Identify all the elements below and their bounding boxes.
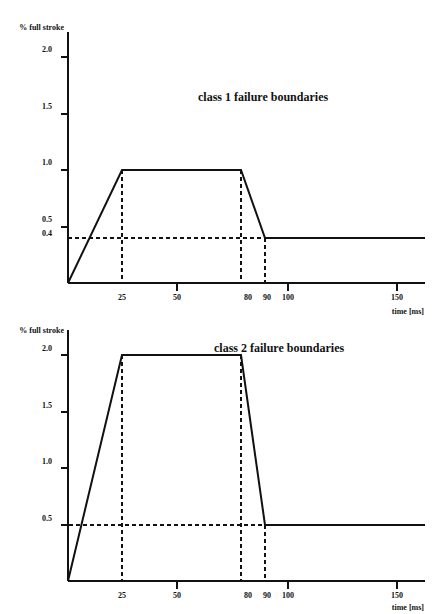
y-tick-label: 2.0 (42, 344, 52, 353)
chart-title: class 1 failure boundaries (198, 90, 328, 104)
y-axis-title: % full stroke (19, 23, 64, 32)
y-tick-label: 0.5 (42, 215, 52, 224)
y-tick-label: 0.4 (42, 229, 52, 238)
y-tick-label: 1.5 (42, 102, 52, 111)
x-axis-title: time [ms] (392, 307, 425, 316)
chart-class-1: % full stroke class 1 failure boundaries… (19, 23, 425, 316)
y-ticks (61, 355, 68, 525)
x-ticks (177, 283, 397, 291)
x-tick-label: 90 (263, 293, 271, 302)
x-tick-label: 25 (118, 293, 126, 302)
x-tick-label: 80 (244, 293, 252, 302)
reference-lines (68, 170, 265, 283)
y-tick-label: 0.5 (42, 514, 52, 523)
x-tick-label: 150 (391, 293, 403, 302)
y-tick-label: 2.0 (42, 45, 52, 54)
y-axis-title: % full stroke (19, 326, 64, 335)
x-tick-label: 100 (282, 591, 294, 600)
x-ticks (177, 581, 397, 589)
x-tick-label: 150 (391, 591, 403, 600)
figure: % full stroke class 1 failure boundaries… (0, 0, 443, 614)
chart-class-2: % full stroke class 2 failure boundaries… (19, 326, 425, 612)
x-tick-label: 50 (173, 293, 181, 302)
chart-title: class 2 failure boundaries (214, 341, 344, 355)
x-axis-title: time [ms] (392, 603, 425, 612)
x-tick-label: 80 (244, 591, 252, 600)
y-tick-label: 1.5 (42, 401, 52, 410)
reference-lines (62, 355, 265, 581)
y-tick-label: 1.0 (42, 457, 52, 466)
y-tick-label: 1.0 (42, 158, 52, 167)
x-tick-label: 25 (118, 591, 126, 600)
x-tick-label: 50 (173, 591, 181, 600)
x-tick-label: 90 (263, 591, 271, 600)
x-tick-label: 100 (282, 293, 294, 302)
y-ticks (61, 57, 68, 227)
